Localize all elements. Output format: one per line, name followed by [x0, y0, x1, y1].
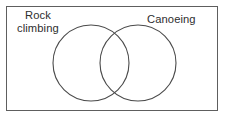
set-label-rock-climbing: Rock climbing	[17, 9, 59, 34]
venn-diagram-figure: Rock climbing Canoeing	[0, 0, 226, 120]
set-label-canoeing: Canoeing	[147, 13, 196, 26]
